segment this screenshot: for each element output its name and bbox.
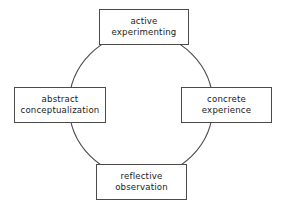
node-concrete-experience: concrete experience bbox=[181, 87, 272, 123]
node-abstract-conceptualization-line2: conceptualization bbox=[21, 105, 100, 117]
node-abstract-conceptualization: abstract conceptualization bbox=[14, 87, 106, 123]
node-active-experimenting-line1: active bbox=[130, 16, 157, 28]
node-concrete-experience-line1: concrete bbox=[207, 94, 246, 106]
node-reflective-observation: reflective observation bbox=[96, 164, 187, 200]
node-active-experimenting-line2: experimenting bbox=[112, 27, 177, 39]
node-active-experimenting: active experimenting bbox=[99, 9, 189, 45]
experiential-learning-cycle-diagram: active experimenting concrete experience… bbox=[0, 0, 282, 211]
node-reflective-observation-line1: reflective bbox=[121, 171, 163, 183]
node-concrete-experience-line2: experience bbox=[202, 105, 251, 117]
node-reflective-observation-line2: observation bbox=[115, 182, 168, 194]
node-abstract-conceptualization-line1: abstract bbox=[42, 94, 79, 106]
